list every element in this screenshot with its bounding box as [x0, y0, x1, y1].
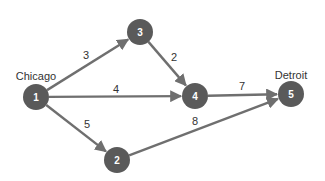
network-diagram: 345278 12345 Chicago Detroit	[0, 0, 325, 181]
city-label-chicago: Chicago	[16, 70, 56, 82]
node-3: 3	[127, 19, 153, 45]
node-label-5: 5	[288, 89, 294, 100]
node-label-2: 2	[114, 155, 120, 166]
node-4: 4	[182, 83, 208, 109]
node-label-1: 1	[33, 92, 39, 103]
edge-2-5	[129, 99, 278, 155]
edge-weight-1-2: 5	[84, 118, 90, 130]
edge-weight-1-3: 3	[83, 49, 89, 61]
network-canvas: 345278 12345 Chicago Detroit	[0, 0, 325, 181]
node-label-3: 3	[137, 27, 143, 38]
node-5: 5	[278, 81, 304, 107]
edge-weight-4-5: 7	[239, 80, 245, 92]
edge-3-4	[148, 42, 185, 86]
edge-1-2	[46, 105, 106, 151]
node-1: 1	[23, 84, 49, 110]
edges-layer	[46, 39, 278, 155]
edge-weight-1-4: 4	[113, 83, 119, 95]
edge-weight-2-5: 8	[192, 115, 198, 127]
node-label-4: 4	[192, 91, 198, 102]
city-label-detroit: Detroit	[275, 69, 307, 81]
edge-4-5	[208, 94, 277, 95]
edge-1-4	[49, 96, 181, 97]
edge-weight-3-4: 2	[171, 51, 177, 63]
node-2: 2	[104, 147, 130, 173]
